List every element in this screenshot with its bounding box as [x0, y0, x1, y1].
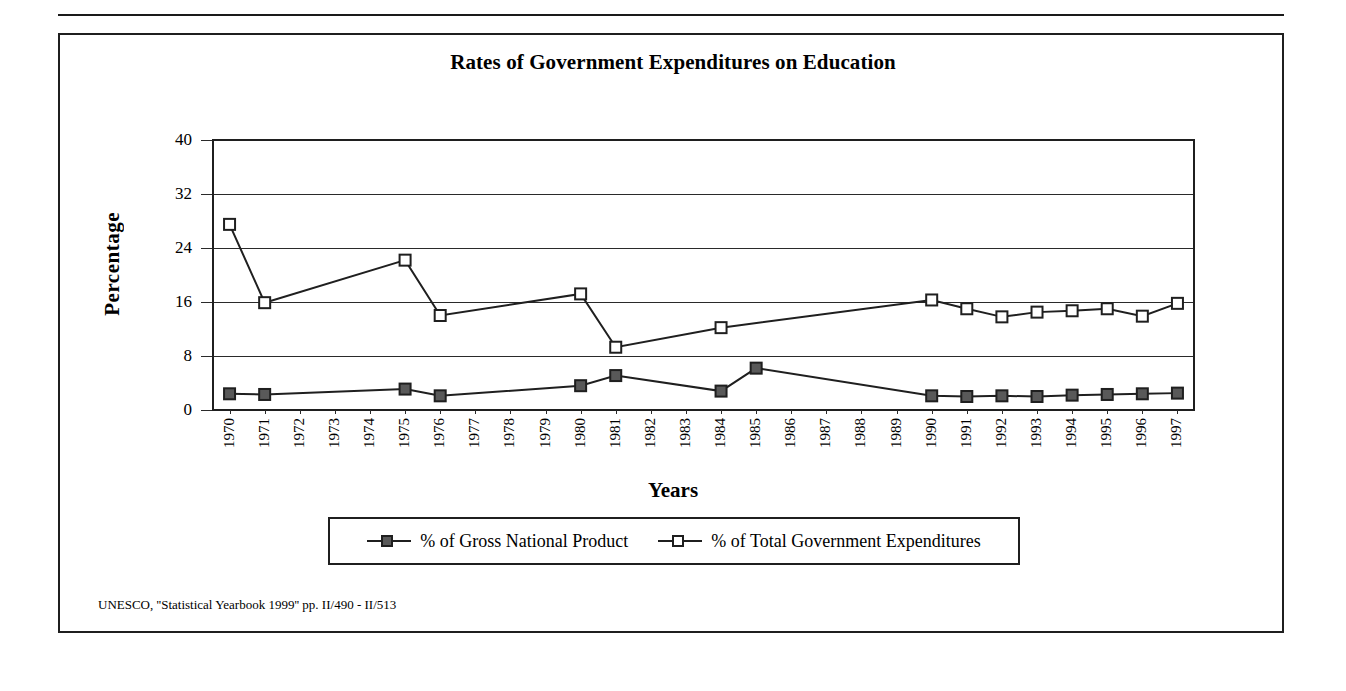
data-point-marker — [926, 390, 937, 401]
data-point-marker — [610, 342, 621, 353]
x-axis-tick-label: 1971 — [257, 418, 275, 448]
legend-label-total-gov-exp: % of Total Government Expenditures — [711, 531, 980, 552]
x-axis-tick — [686, 410, 687, 414]
x-axis-tick-label: 1980 — [573, 418, 591, 448]
x-axis-tick — [1142, 410, 1143, 414]
filled-square-marker-icon — [367, 534, 411, 548]
data-point-marker — [435, 310, 446, 321]
data-point-marker — [259, 389, 270, 400]
data-series-layer — [0, 0, 1346, 691]
x-axis-tick — [1037, 410, 1038, 414]
x-axis-tick-label: 1991 — [959, 418, 977, 448]
x-axis-tick — [932, 410, 933, 414]
data-point-marker — [1067, 390, 1078, 401]
x-axis-tick-label: 1982 — [643, 418, 661, 448]
data-point-marker — [1137, 388, 1148, 399]
source-note: UNESCO, ''Statistical Yearbook 1999'' pp… — [98, 597, 396, 613]
x-axis-tick — [826, 410, 827, 414]
x-axis-tick-label: 1992 — [994, 418, 1012, 448]
data-point-marker — [224, 388, 235, 399]
x-axis-tick-label: 1988 — [853, 418, 871, 448]
data-point-marker — [996, 390, 1007, 401]
data-point-marker — [400, 384, 411, 395]
x-axis-tick — [335, 410, 336, 414]
x-axis-tick-label: 1984 — [713, 418, 731, 448]
x-axis-tick-label: 1995 — [1099, 418, 1117, 448]
x-axis-tick — [300, 410, 301, 414]
open-square-marker-icon — [658, 534, 702, 548]
data-point-marker — [575, 288, 586, 299]
x-axis-tick — [967, 410, 968, 414]
data-point-marker — [259, 297, 270, 308]
x-axis-tick-label: 1977 — [467, 418, 485, 448]
x-axis-tick — [230, 410, 231, 414]
series-line-total-gov-exp — [230, 224, 1178, 347]
data-point-marker — [716, 386, 727, 397]
chart-legend: % of Gross National Product % of Total G… — [328, 517, 1020, 565]
x-axis-tick-label: 1970 — [222, 418, 240, 448]
x-axis-tick — [265, 410, 266, 414]
data-point-marker — [1067, 305, 1078, 316]
data-point-marker — [1137, 311, 1148, 322]
x-axis-tick-label: 1985 — [748, 418, 766, 448]
data-point-marker — [575, 380, 586, 391]
data-point-marker — [996, 311, 1007, 322]
x-axis-title: Years — [0, 478, 1346, 503]
data-point-marker — [1172, 388, 1183, 399]
x-axis-tick — [861, 410, 862, 414]
x-axis-tick — [1072, 410, 1073, 414]
data-point-marker — [716, 322, 727, 333]
data-point-marker — [961, 303, 972, 314]
data-point-marker — [400, 255, 411, 266]
x-axis-tick-label: 1989 — [889, 418, 907, 448]
data-point-marker — [1172, 298, 1183, 309]
x-axis-tick — [370, 410, 371, 414]
data-point-marker — [610, 370, 621, 381]
x-axis-tick — [791, 410, 792, 414]
x-axis-tick-label: 1975 — [397, 418, 415, 448]
x-axis-tick — [510, 410, 511, 414]
data-point-marker — [751, 363, 762, 374]
x-axis-tick — [651, 410, 652, 414]
x-axis-tick-label: 1997 — [1169, 418, 1187, 448]
x-axis-tick-label: 1972 — [292, 418, 310, 448]
x-axis-tick — [1177, 410, 1178, 414]
chart-figure: Rates of Government Expenditures on Educ… — [0, 0, 1346, 691]
data-point-marker — [1102, 303, 1113, 314]
x-axis-tick — [546, 410, 547, 414]
data-point-marker — [435, 390, 446, 401]
x-axis-tick — [721, 410, 722, 414]
legend-item-gnp: % of Gross National Product — [367, 531, 628, 552]
x-axis-tick — [475, 410, 476, 414]
x-axis-tick — [581, 410, 582, 414]
x-axis-tick-label: 1996 — [1134, 418, 1152, 448]
x-axis-tick — [405, 410, 406, 414]
data-point-marker — [961, 391, 972, 402]
x-axis-tick-label: 1978 — [502, 418, 520, 448]
x-axis-tick-label: 1979 — [538, 418, 556, 448]
x-axis-tick — [616, 410, 617, 414]
data-point-marker — [1032, 307, 1043, 318]
x-axis-tick-label: 1983 — [678, 418, 696, 448]
x-axis-tick — [756, 410, 757, 414]
x-axis-tick-label: 1990 — [924, 418, 942, 448]
x-axis-tick — [1002, 410, 1003, 414]
legend-label-gnp: % of Gross National Product — [420, 531, 628, 552]
data-point-marker — [224, 219, 235, 230]
x-axis-tick-label: 1994 — [1064, 418, 1082, 448]
x-axis-tick — [1107, 410, 1108, 414]
x-axis-tick — [897, 410, 898, 414]
x-axis-tick-label: 1974 — [362, 418, 380, 448]
legend-item-total-gov-exp: % of Total Government Expenditures — [658, 531, 980, 552]
x-axis-tick-label: 1986 — [783, 418, 801, 448]
data-point-marker — [1102, 389, 1113, 400]
x-axis-tick-label: 1976 — [432, 418, 450, 448]
data-point-marker — [926, 294, 937, 305]
x-axis-tick-label: 1993 — [1029, 418, 1047, 448]
x-axis-tick-label: 1987 — [818, 418, 836, 448]
x-axis-tick — [440, 410, 441, 414]
x-axis-tick-label: 1981 — [608, 418, 626, 448]
data-point-marker — [1032, 391, 1043, 402]
x-axis-tick-label: 1973 — [327, 418, 345, 448]
